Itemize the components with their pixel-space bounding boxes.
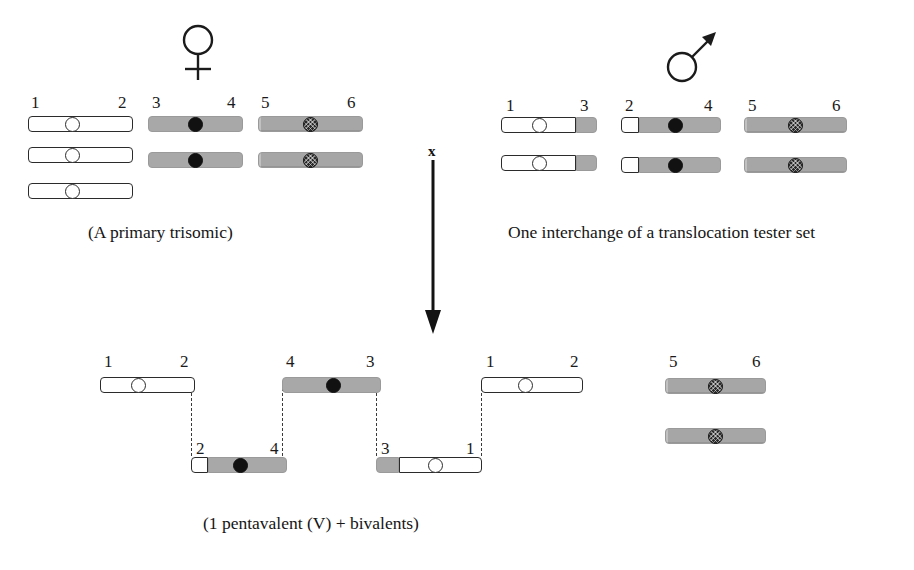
centromere-open-icon <box>428 458 443 473</box>
chromosome-5-6-male-copy-2 <box>744 157 847 173</box>
centromere-solid-icon <box>668 118 683 133</box>
arm-label-female-5-6-left: 5 <box>261 94 270 111</box>
pentavalent-chromosome-1-2-right <box>481 377 583 393</box>
centromere-hatched-icon <box>303 117 318 132</box>
pairing-line-2 <box>282 388 283 456</box>
centromere-open-icon <box>65 184 80 199</box>
centromere-hatched-icon <box>708 379 723 394</box>
progeny-caption: (1 pentavalent (V) + bivalents) <box>203 513 419 534</box>
chromosome-segment-white <box>28 183 133 199</box>
arm-label-female-3-4-right: 4 <box>227 94 236 111</box>
genetics-figure: (A primary trisomic) One interchange of … <box>0 0 914 570</box>
centromere-solid-icon <box>188 153 203 168</box>
arm-label-female-1-2-right: 2 <box>118 94 127 111</box>
arm-label-pent-2-4-left: 2 <box>196 440 205 457</box>
arm-label-pent-4-3-right: 3 <box>366 353 375 370</box>
arm-label-pent-3-1-right: 1 <box>466 440 475 457</box>
arm-label-male-5-6-right: 6 <box>832 97 841 114</box>
pairing-line-3 <box>376 388 377 456</box>
chromosome-segment-white <box>100 377 195 393</box>
arm-label-pent-1-2r-right: 2 <box>570 353 579 370</box>
chromosome-segment-white <box>28 147 133 163</box>
arm-label-pent-2-4-right: 4 <box>270 440 279 457</box>
arm-label-bivalent-5-6-right: 6 <box>752 353 761 370</box>
arm-label-pent-1-2-right: 2 <box>180 353 189 370</box>
chromosome-1-2-copy-3 <box>28 183 133 199</box>
centromere-solid-icon <box>668 158 683 173</box>
chromosome-2-4-copy-2 <box>621 157 721 173</box>
pentavalent-chromosome-4-3 <box>282 377 381 393</box>
chromosome-1-3-copy-2 <box>501 155 597 171</box>
centromere-hatched-icon <box>708 429 723 444</box>
chromosome-1-2-copy-2 <box>28 147 133 163</box>
male-mars-symbol <box>658 24 728 90</box>
centromere-hatched-icon <box>303 153 318 168</box>
chromosome-segment-grey <box>576 117 597 133</box>
arm-label-pent-4-3-left: 4 <box>286 353 295 370</box>
pairing-line-4 <box>481 388 482 456</box>
centromere-solid-icon <box>233 458 248 473</box>
chromosome-5-6-copy-1 <box>258 116 363 132</box>
chromosome-segment-white <box>621 157 639 173</box>
arm-label-male-2-4-right: 4 <box>704 97 713 114</box>
arm-label-male-1-3-right: 3 <box>580 97 589 114</box>
female-parent-caption: (A primary trisomic) <box>88 222 233 243</box>
centromere-open-icon <box>131 378 146 393</box>
arm-label-pent-3-1-left: 3 <box>381 440 390 457</box>
centromere-open-icon <box>532 118 547 133</box>
pentavalent-chromosome-3-1 <box>376 457 482 473</box>
centromere-open-icon <box>65 117 80 132</box>
bivalent-chromosome-5-6-copy-2 <box>665 428 766 444</box>
pentavalent-chromosome-2-4 <box>191 457 287 473</box>
chromosome-5-6-male-copy-1 <box>744 117 847 133</box>
bivalent-chromosome-5-6-copy-1 <box>665 378 766 394</box>
centromere-open-icon <box>518 378 533 393</box>
arm-label-female-1-2-left: 1 <box>31 94 40 111</box>
male-parent-caption: One interchange of a translocation teste… <box>508 222 815 243</box>
centromere-hatched-icon <box>788 158 803 173</box>
pentavalent-chromosome-1-2 <box>100 377 195 393</box>
chromosome-segment-grey <box>376 457 399 473</box>
arm-label-female-5-6-right: 6 <box>347 94 356 111</box>
centromere-hatched-icon <box>788 118 803 133</box>
chromosome-3-4-copy-1 <box>148 116 243 132</box>
chromosome-1-3-copy-1 <box>501 117 597 133</box>
pairing-line-1 <box>191 388 192 456</box>
cross-symbol: x <box>428 143 436 160</box>
centromere-solid-icon <box>188 117 203 132</box>
arm-label-pent-1-2-left: 1 <box>104 353 113 370</box>
chromosome-segment-grey <box>576 155 597 171</box>
centromere-open-icon <box>532 156 547 171</box>
arm-label-pent-1-2r-left: 1 <box>486 353 495 370</box>
chromosome-2-4-copy-1 <box>621 117 721 133</box>
chromosome-5-6-copy-2 <box>258 152 363 168</box>
arm-label-male-1-3-left: 1 <box>506 97 515 114</box>
female-venus-symbol <box>168 22 228 88</box>
centromere-open-icon <box>65 148 80 163</box>
chromosome-3-4-copy-2 <box>148 152 243 168</box>
arm-label-bivalent-5-6-left: 5 <box>669 353 678 370</box>
chromosome-1-2-copy-1 <box>28 116 133 132</box>
down-arrow-icon <box>418 160 450 339</box>
chromosome-segment-white <box>621 117 639 133</box>
arm-label-male-2-4-left: 2 <box>625 97 634 114</box>
chromosome-segment-white <box>28 116 133 132</box>
arm-label-male-5-6-left: 5 <box>748 97 757 114</box>
chromosome-segment-white <box>191 457 208 473</box>
centromere-solid-icon <box>326 378 341 393</box>
arm-label-female-3-4-left: 3 <box>152 94 161 111</box>
